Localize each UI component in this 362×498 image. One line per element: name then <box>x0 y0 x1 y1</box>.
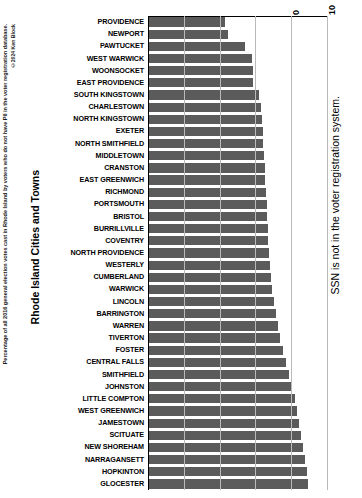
caption-text: Percentage of all 2016 general election … <box>3 24 9 364</box>
category-label: GLOCESTER <box>100 480 144 487</box>
gridline-20 <box>220 16 221 490</box>
category-label: NEW SHOREHAM <box>85 443 145 450</box>
category-label: NEWPORT <box>108 30 144 37</box>
plot-frame <box>148 16 327 490</box>
category-label: SCITUATE <box>109 431 144 438</box>
category-label: HOPKINTON <box>102 468 144 475</box>
category-label: EAST GREENWICH <box>80 176 145 183</box>
category-label: CRANSTON <box>104 164 144 171</box>
category-label: CHARLESTOWN <box>89 103 144 110</box>
category-label: PORTSMOUTH <box>94 200 144 207</box>
category-label: LINCOLN <box>113 298 144 305</box>
category-label: MIDDLETOWN <box>96 152 144 159</box>
category-label: WEST GREENWICH <box>78 407 144 414</box>
category-label: NORTH SMITHFIELD <box>75 140 144 147</box>
category-label: NORTH KINGSTOWN <box>73 115 144 122</box>
category-label: WESTERLY <box>106 261 144 268</box>
ssn-annotation: SSN is not in the voter registration sys… <box>330 96 341 294</box>
category-label: JOHNSTON <box>105 383 144 390</box>
category-label: WARWICK <box>109 285 144 292</box>
gridline-30 <box>255 16 256 490</box>
category-label: LITTLE COMPTON <box>82 395 144 402</box>
category-label: WEST WARWICK <box>87 55 144 62</box>
copyright-text: ©2024 Ken Block <box>11 24 16 68</box>
category-label: FOSTER <box>115 346 144 353</box>
category-label: JAMESTOWN <box>98 419 144 426</box>
category-label: EAST PROVIDENCE <box>77 79 144 86</box>
category-label: EXETER <box>116 127 144 134</box>
category-labels: PROVIDENCENEWPORTPAWTUCKETWEST WARWICKWO… <box>56 16 146 490</box>
x-tick-label-10: 10 <box>328 5 337 15</box>
y-axis-title: Rhode Island Cities and Towns <box>30 170 41 324</box>
category-label: CENTRAL FALLS <box>86 358 144 365</box>
category-label: SMITHFIELD <box>102 371 144 378</box>
x-axis-tick-labels: 01020304050 <box>148 0 348 16</box>
category-label: SOUTH KINGSTOWN <box>74 91 144 98</box>
gridline-10 <box>184 16 185 490</box>
gridline-40 <box>291 16 292 490</box>
caption-block: Percentage of all 2016 general election … <box>0 0 24 498</box>
category-label: CUMBERLAND <box>93 273 144 280</box>
x-tick-label-0: 0 <box>292 10 301 15</box>
category-label: WARREN <box>113 322 144 329</box>
category-label: TIVERTON <box>109 334 144 341</box>
category-label: NORTH PROVIDENCE <box>71 249 144 256</box>
gridline-50 <box>327 16 328 490</box>
category-label: PAWTUCKET <box>100 42 144 49</box>
category-label: RICHMOND <box>105 188 144 195</box>
category-label: BURRILLVILLE <box>94 225 144 232</box>
category-label: BRISTOL <box>113 213 144 220</box>
category-label: COVENTRY <box>105 237 144 244</box>
category-label: BARRINGTON <box>96 310 144 317</box>
category-label: WOONSOCKET <box>92 67 144 74</box>
category-label: PROVIDENCE <box>97 18 144 25</box>
category-label: NARRAGANSETT <box>85 456 144 463</box>
bar-chart-plot-area <box>148 16 327 490</box>
